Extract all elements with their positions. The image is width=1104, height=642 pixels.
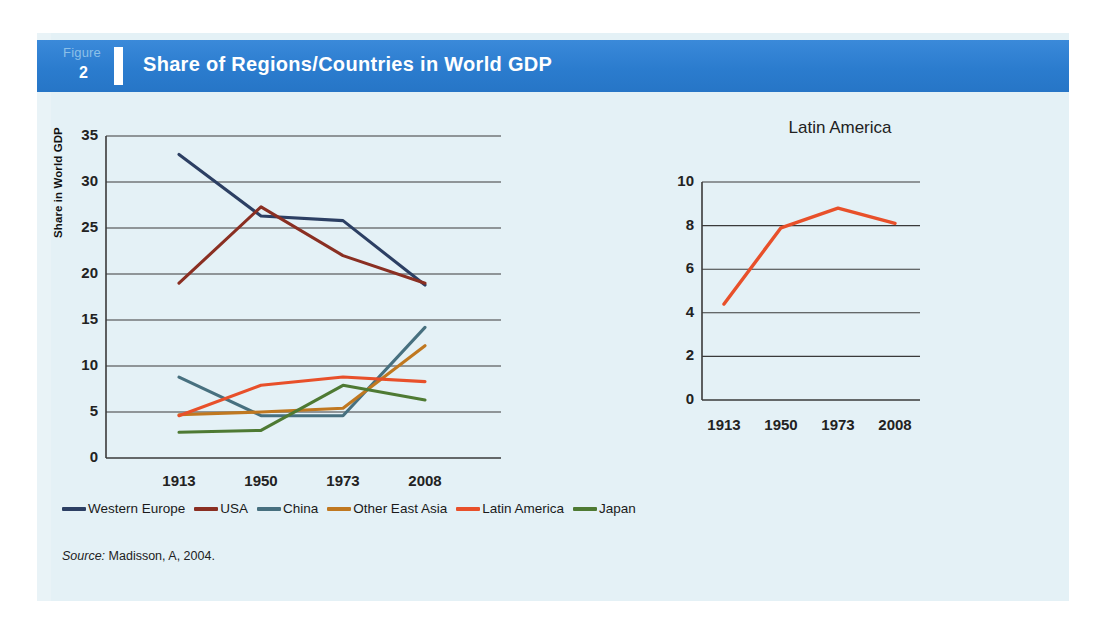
series-line-latin-america	[724, 208, 895, 304]
series-line-japan	[179, 385, 425, 432]
y-tick-label: 4	[654, 303, 694, 320]
legend-swatch-icon	[456, 507, 480, 511]
figure-title: Share of Regions/Countries in World GDP	[143, 53, 552, 76]
x-tick-label: 2008	[385, 472, 465, 489]
y-tick-label: 6	[654, 259, 694, 276]
chart-legend: Western EuropeUSAChinaOther East AsiaLat…	[62, 501, 645, 516]
source-text: Madisson, A, 2004.	[109, 549, 215, 563]
figure-root: Figure 2 Share of Regions/Countries in W…	[0, 0, 1104, 642]
y-tick-label: 0	[58, 448, 98, 465]
source-prefix: Source:	[62, 549, 105, 563]
y-tick-label: 8	[654, 216, 694, 233]
main-chart	[50, 110, 570, 480]
banner-divider	[114, 47, 123, 85]
main-chart-svg	[50, 110, 570, 480]
legend-label: Other East Asia	[353, 501, 447, 516]
series-line-western-europe	[179, 154, 425, 285]
y-tick-label: 35	[58, 126, 98, 143]
panel-left-edge	[37, 33, 51, 601]
legend-item-western-europe[interactable]: Western Europe	[62, 501, 185, 516]
legend-swatch-icon	[194, 507, 218, 511]
legend-swatch-icon	[257, 507, 281, 511]
x-tick-label: 1950	[221, 472, 301, 489]
legend-swatch-icon	[327, 507, 351, 511]
figure-label: Figure	[63, 45, 101, 60]
y-tick-label: 10	[654, 172, 694, 189]
figure-number: 2	[79, 64, 88, 82]
x-tick-label: 1913	[139, 472, 219, 489]
y-tick-label: 25	[58, 218, 98, 235]
legend-label: Latin America	[482, 501, 564, 516]
legend-label: USA	[220, 501, 248, 516]
x-tick-label: 2008	[855, 416, 935, 433]
latin-america-chart-title: Latin America	[640, 118, 1040, 138]
y-tick-label: 0	[654, 390, 694, 407]
legend-label: Western Europe	[88, 501, 185, 516]
legend-label: China	[283, 501, 318, 516]
legend-item-latin-america[interactable]: Latin America	[456, 501, 564, 516]
legend-item-usa[interactable]: USA	[194, 501, 248, 516]
y-tick-label: 5	[58, 402, 98, 419]
y-tick-label: 15	[58, 310, 98, 327]
legend-label: Japan	[599, 501, 636, 516]
legend-swatch-icon	[573, 507, 597, 511]
y-tick-label: 20	[58, 264, 98, 281]
legend-swatch-icon	[62, 507, 86, 511]
figure-banner: Figure 2 Share of Regions/Countries in W…	[37, 40, 1069, 92]
x-tick-label: 1973	[303, 472, 383, 489]
legend-item-japan[interactable]: Japan	[573, 501, 636, 516]
y-tick-label: 2	[654, 346, 694, 363]
y-tick-label: 10	[58, 356, 98, 373]
y-tick-label: 30	[58, 172, 98, 189]
legend-item-other-east-asia[interactable]: Other East Asia	[327, 501, 447, 516]
source-note: Source: Madisson, A, 2004.	[62, 549, 215, 563]
legend-item-china[interactable]: China	[257, 501, 318, 516]
